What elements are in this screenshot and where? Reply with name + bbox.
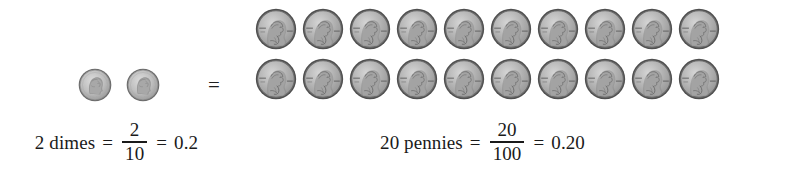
penny-coin-11 — [255, 58, 297, 100]
penny-coin-20 — [678, 58, 720, 100]
dimes-equals-1: = — [102, 132, 113, 154]
penny-coin-2 — [302, 8, 344, 50]
dime-group — [78, 68, 160, 102]
penny-coin-4 — [396, 8, 438, 50]
pennies-equals-1: = — [470, 132, 481, 154]
penny-coin-14 — [396, 58, 438, 100]
dime-coin-2 — [126, 68, 160, 102]
pennies-fraction-denominator: 100 — [490, 144, 525, 164]
penny-coin-6 — [490, 8, 532, 50]
penny-coin-18 — [584, 58, 626, 100]
pennies-decimal-value: 0.20 — [551, 132, 585, 154]
penny-coin-17 — [537, 58, 579, 100]
pennies-equals-2: = — [533, 132, 544, 154]
penny-coin-5 — [443, 8, 485, 50]
dimes-label: 2 dimes — [35, 132, 95, 154]
penny-coin-3 — [349, 8, 391, 50]
penny-coin-9 — [631, 8, 673, 50]
penny-coin-12 — [302, 58, 344, 100]
pennies-equation-caption: 20 pennies = 20 100 = 0.20 — [345, 120, 620, 166]
dimes-decimal-value: 0.2 — [174, 132, 198, 154]
penny-row-1 — [255, 8, 720, 50]
pennies-fraction-numerator: 20 — [494, 120, 519, 140]
dime-coin-1 — [78, 68, 112, 102]
equals-sign: = — [199, 68, 229, 102]
penny-coin-13 — [349, 58, 391, 100]
dimes-equation-caption: 2 dimes = 2 10 = 0.2 — [14, 120, 219, 166]
penny-coin-7 — [537, 8, 579, 50]
penny-row-2 — [255, 58, 720, 100]
coin-equivalence-figure: = — [0, 0, 790, 170]
penny-coin-19 — [631, 58, 673, 100]
penny-coin-1 — [255, 8, 297, 50]
penny-coin-16 — [490, 58, 532, 100]
penny-coin-10 — [678, 8, 720, 50]
dimes-fraction: 2 10 — [122, 120, 147, 164]
pennies-fraction: 20 100 — [490, 120, 525, 164]
dimes-fraction-denominator: 10 — [122, 144, 147, 164]
dime-row — [78, 68, 160, 102]
penny-group — [255, 8, 720, 100]
dimes-equals-2: = — [156, 132, 167, 154]
penny-coin-15 — [443, 58, 485, 100]
dimes-fraction-numerator: 2 — [127, 120, 143, 140]
penny-coin-8 — [584, 8, 626, 50]
pennies-label: 20 pennies — [380, 132, 463, 154]
